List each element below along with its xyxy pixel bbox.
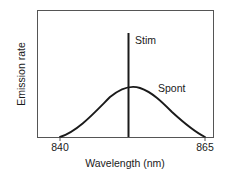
xtick-label-840: 840 xyxy=(51,141,69,153)
xtick-label-865: 865 xyxy=(196,141,214,153)
spont-series-label: Spont xyxy=(158,82,186,94)
stim-series-label: Stim xyxy=(135,34,156,46)
emission-rate-chart: Stim Spont 840 865 Wavelength (nm) Emiss… xyxy=(0,0,234,175)
chart-figure: Stim Spont 840 865 Wavelength (nm) Emiss… xyxy=(0,0,234,175)
y-axis-title: Emission rate xyxy=(15,42,27,106)
x-axis-title: Wavelength (nm) xyxy=(85,157,165,169)
plot-frame xyxy=(38,11,214,138)
